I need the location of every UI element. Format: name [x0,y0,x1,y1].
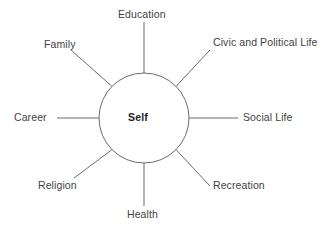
spoke-line-family [71,50,112,86]
spoke-label-health: Health [127,208,158,221]
spoke-line-civic [176,50,210,86]
spoke-line-religion [74,150,112,178]
spoke-label-career: Career [14,111,47,124]
spoke-line-recreation [176,150,210,186]
spoke-label-religion: Religion [38,179,77,192]
spoke-label-recreation: Recreation [213,179,265,192]
spoke-label-civic-and-political-life: Civic and Political Life [213,36,318,49]
center-label-self: Self [128,111,148,123]
spoke-label-family: Family [44,38,76,51]
spoke-label-social-life: Social Life [243,111,293,124]
spoke-label-education: Education [118,8,166,21]
self-radial-diagram: Self Education Civic and Political Life … [0,0,331,236]
